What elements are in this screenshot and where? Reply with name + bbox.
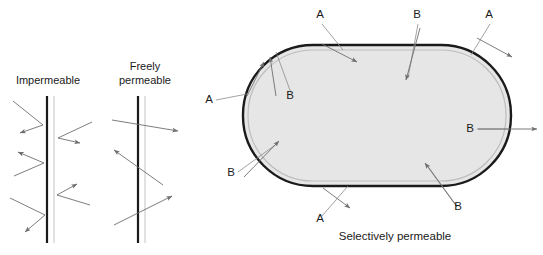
label-b-upper-left-inner: B [286,89,294,101]
arrow-incoming-right-2 [57,195,90,205]
impermeable-membrane [47,96,54,243]
arrow-incoming-deflected-1 [13,101,43,125]
capsule-cell [243,45,511,186]
arrow-through-right-2 [114,196,172,225]
arrow-deflected-out-1 [20,125,43,133]
impermeable-caption: Impermeable [16,74,80,86]
label-b-right: B [466,122,474,134]
freely-permeable-caption-line1: Freely [130,60,161,72]
label-b-lower-left: B [227,166,235,178]
label-a-bottom: A [316,212,324,224]
arrow-deflected-out-2 [18,152,44,163]
label-b-bottom-right: B [454,200,462,212]
selectively-permeable-caption: Selectively permeable [339,230,452,242]
freely-permeable-caption-line2: permeable [119,74,171,86]
arrow-incoming-right-1 [58,122,92,138]
panel-selectively-permeable: A B A A B B B A B Selectively permeable [205,8,537,242]
arrow-incoming-deflected-2 [14,163,44,176]
panel-impermeable: Impermeable [10,74,92,243]
label-a-top-left: A [316,8,324,20]
label-a-top-right: A [485,8,493,20]
figure-canvas: Impermeable Freely permeable [0,0,543,255]
arrow-a-top-right-out [477,38,512,57]
capsule-outer-boundary [243,45,511,186]
arrow-a-bottom-out [323,188,350,208]
impermeable-arrow-group [10,101,92,232]
arrow-deflected-right-1 [58,138,80,143]
arrow-deflected-out-3 [25,215,45,232]
arrow-incoming-deflected-3 [10,198,45,215]
membrane-permeability-figure: Impermeable Freely permeable [0,0,543,255]
arrow-deflected-right-2 [57,184,77,195]
leader-a-left [216,94,247,100]
panel-freely-permeable: Freely permeable [112,60,178,243]
label-a-left: A [205,93,213,105]
label-b-top-center: B [413,8,421,20]
